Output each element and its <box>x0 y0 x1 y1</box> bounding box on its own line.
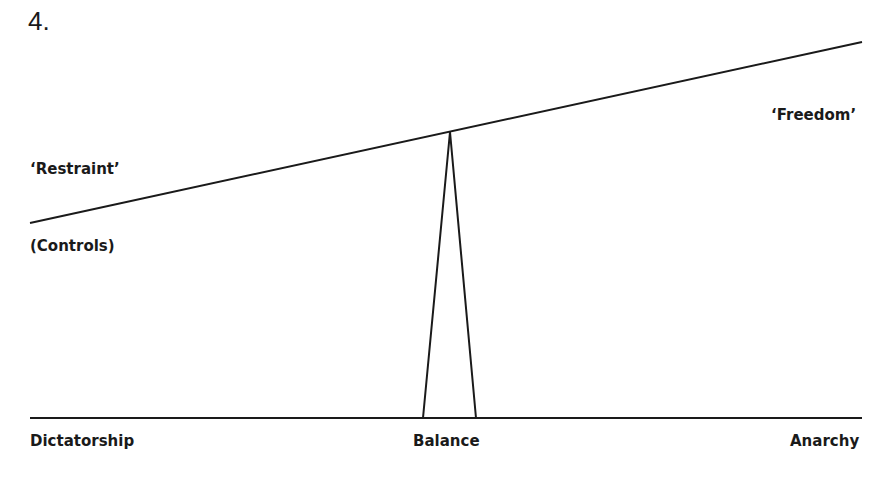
label-controls: (Controls) <box>30 237 115 255</box>
seesaw-diagram <box>0 0 895 478</box>
label-anarchy: Anarchy <box>790 432 859 450</box>
fulcrum <box>423 132 476 418</box>
label-balance: Balance <box>413 432 480 450</box>
label-freedom: ‘Freedom’ <box>771 106 856 124</box>
label-dictatorship: Dictatorship <box>30 432 134 450</box>
beam-line <box>30 42 862 223</box>
label-restraint: ‘Restraint’ <box>30 160 120 178</box>
